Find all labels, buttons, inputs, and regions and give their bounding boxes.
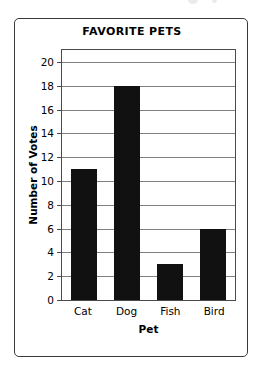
bar-slot xyxy=(192,50,235,300)
y-axis-title: Number of Votes xyxy=(27,100,39,250)
scan-artifact xyxy=(0,0,262,14)
bar-bird xyxy=(200,229,226,300)
x-axis-tick-label: Dog xyxy=(105,305,149,317)
chart-frame: FAVORITE PETS Number of Votes 0246810121… xyxy=(14,18,248,357)
bar-slot xyxy=(105,50,148,300)
chart-title: FAVORITE PETS xyxy=(15,25,249,38)
y-axis-tick-label: 16 xyxy=(41,104,54,116)
y-axis-tick-label: 2 xyxy=(47,270,54,282)
x-axis-title: Pet xyxy=(61,323,236,335)
y-axis-tick-label: 4 xyxy=(47,246,54,258)
y-axis-tick xyxy=(57,300,62,301)
bars-group xyxy=(62,50,235,300)
y-axis-tick-label: 6 xyxy=(47,223,54,235)
x-axis-tick-labels: CatDogFishBird xyxy=(61,305,236,317)
y-axis-tick-label: 18 xyxy=(41,80,54,92)
x-axis-tick-label: Cat xyxy=(61,305,105,317)
gridline xyxy=(62,300,235,301)
bar-cat xyxy=(71,169,97,300)
y-axis-tick-label: 20 xyxy=(41,56,54,68)
plot-area: 02468101214161820 xyxy=(61,49,236,301)
bar-dog xyxy=(114,86,140,300)
y-axis-tick-label: 14 xyxy=(41,127,54,139)
y-axis-tick-label: 0 xyxy=(47,294,54,306)
bar-slot xyxy=(62,50,105,300)
x-axis-tick-label: Fish xyxy=(149,305,193,317)
bar-fish xyxy=(157,264,183,300)
bar-slot xyxy=(149,50,192,300)
y-axis-tick-label: 10 xyxy=(41,175,54,187)
y-axis-tick-label: 8 xyxy=(47,199,54,211)
y-axis-tick-label: 12 xyxy=(41,151,54,163)
x-axis-tick-label: Bird xyxy=(192,305,236,317)
